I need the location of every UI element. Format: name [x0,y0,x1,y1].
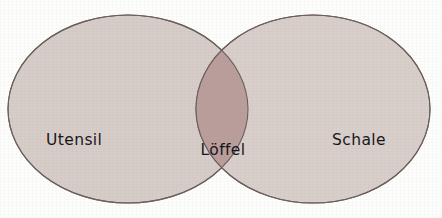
right-set-label-line-1: Schale [332,125,386,155]
left-set-label-line-1: Utensil [46,125,102,155]
right-set-label: Schale mit Griff [332,65,386,218]
right-set-label-line-2: mit [332,215,386,218]
left-set-label-line-2: zum [46,215,102,218]
intersection-label: Löffel [185,95,261,205]
intersection-label-text: Löffel [185,139,261,161]
left-set-label: Utensil zum Essen [46,65,102,218]
venn-diagram-page: Utensil zum Essen Löffel Schale mit Grif… [0,0,442,218]
